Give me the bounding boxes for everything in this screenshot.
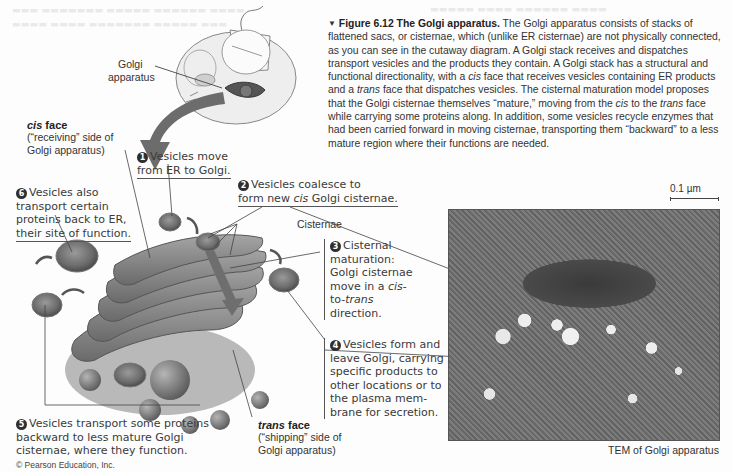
step-text: proteins back to ER, [16,213,131,227]
caption-text: to the [628,98,660,109]
scale-bar-label: 0.1 µm [670,183,701,194]
cis-face-label: cis face (“receiving” side of Golgi appa… [27,119,113,157]
trans-face-label: trans face (“shipping” side of Golgi app… [258,419,341,457]
step-number-badge: 1 [137,152,148,163]
step-text: cis [388,280,403,293]
cisternae-label: Cisternae [297,218,342,231]
step-5-label: 5Vesicles transport some proteins backwa… [16,417,209,458]
step-text: leave Golgi, carrying [330,352,444,366]
step-text: - [403,280,407,293]
step-text: from ER to Golgi. [137,164,231,180]
step-text: the plasma mem- [330,392,444,406]
step-number-badge: 4 [330,340,341,351]
copyright-notice: © Pearson Education, Inc. [16,460,115,470]
step-text: cis [293,192,308,205]
step-text: backward to less mature Golgi [16,431,209,445]
label-italic: cis [27,119,42,131]
step-number-badge: 6 [16,188,27,199]
step-text: their site of function. [16,227,131,243]
label-line: Golgi apparatus) [258,444,341,457]
step-4-label: 4Vesicles form and leave Golgi, carrying… [324,338,444,419]
caption-text: cis [468,71,481,82]
label-line: apparatus [108,71,155,84]
step-number-badge: 5 [16,419,27,430]
step-text: Cisternal [343,239,392,252]
figure-title: The Golgi apparatus. [397,18,500,29]
label-text: face [285,419,310,431]
step-text: Vesicles transport some proteins [29,417,209,430]
label-italic: trans [258,419,285,431]
step-3-label: 3Cisternal maturation: Golgi cisternae m… [324,239,413,320]
caption-text: trans [660,98,683,109]
golgi-stack [65,235,269,434]
step-text: move in a [330,280,388,293]
step-text: trans [345,293,373,306]
step-text: Vesicles coalesce to [251,178,361,191]
step-2-label: 2Vesicles coalesce to form new cis Golgi… [238,178,398,207]
step-6-label: 6Vesicles also transport certain protein… [16,186,131,242]
scale-bar [670,197,719,201]
label-line: Golgi apparatus) [27,144,113,157]
step-text: specific products to [330,365,444,379]
step-text: brane for secretion. [330,406,444,420]
step-text: Golgi cisternae [330,266,413,280]
figure-caption: ▼ Figure 6.12 The Golgi apparatus. The G… [328,17,728,150]
golgi-apparatus-label: Golgi apparatus [118,58,155,84]
figure-label: Figure 6.12 [339,18,394,29]
step-text: Golgi cisternae. [308,192,398,205]
caption-text: trans [357,84,380,95]
step-number-badge: 3 [330,241,341,252]
label-text: face [42,119,67,131]
label-line: (“receiving” side of [27,131,113,144]
step-text: maturation: [330,253,413,267]
caption-text: cis [616,98,629,109]
step-text: direction. [330,307,413,321]
step-number-badge: 2 [238,180,249,191]
step-text: Vesicles move [150,150,228,163]
step-text: Vesicles also [29,186,99,199]
label-line: Golgi [118,58,155,71]
step-text: cisternae, where they function. [16,444,209,458]
step-text: form new [238,192,293,205]
step-1-label: 1Vesicles move from ER to Golgi. [137,150,231,179]
step-text: other locations or to [330,379,444,393]
step-text: to- [330,293,345,306]
step-text: transport certain [16,200,131,214]
label-line: (“shipping” side of [258,431,341,444]
step-text: Vesicles form and [343,338,440,351]
micrograph-caption: TEM of Golgi apparatus [608,444,719,456]
triangle-marker-icon: ▼ [328,19,336,28]
tem-micrograph-image [448,209,720,441]
